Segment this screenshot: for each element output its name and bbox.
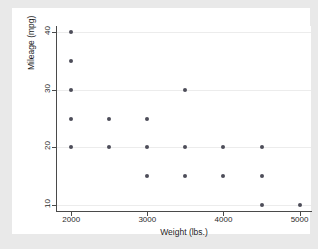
plot-area — [56, 26, 311, 211]
data-point — [183, 145, 187, 149]
data-point — [69, 59, 73, 63]
data-point — [145, 117, 149, 121]
data-point — [221, 174, 225, 178]
data-point — [298, 203, 302, 207]
y-tick-label-text: 10 — [43, 199, 52, 208]
data-point — [107, 145, 111, 149]
gridline-y-40 — [56, 32, 311, 33]
y-tick-label-text: 30 — [43, 84, 52, 93]
chart-panel: 10203040 2000300040005000 Mileage (mpg) … — [12, 8, 310, 234]
chart-figure: 10203040 2000300040005000 Mileage (mpg) … — [0, 0, 318, 249]
y-tick-label-text: 40 — [43, 26, 52, 35]
data-point — [260, 203, 264, 207]
y-tick-label-text: 20 — [43, 141, 52, 150]
y-axis-line — [56, 26, 57, 212]
data-point — [69, 117, 73, 121]
data-point — [260, 174, 264, 178]
x-tick-label: 5000 — [280, 215, 318, 224]
x-tick-label: 2000 — [51, 215, 91, 224]
data-point — [145, 174, 149, 178]
x-tick-label: 3000 — [127, 215, 167, 224]
y-tick-40 — [52, 32, 56, 33]
gridline-y-10 — [56, 205, 311, 206]
data-point — [69, 30, 73, 34]
data-point — [221, 145, 225, 149]
x-axis-line — [56, 211, 312, 212]
y-axis-title: Mileage (mpg) — [26, 16, 36, 70]
x-tick-label: 4000 — [203, 215, 243, 224]
y-tick-30 — [52, 90, 56, 91]
x-axis-title: Weight (lbs.) — [56, 227, 312, 237]
y-tick-label: 10 — [12, 199, 52, 208]
data-point — [69, 145, 73, 149]
data-point — [69, 88, 73, 92]
y-tick-10 — [52, 205, 56, 206]
data-point — [107, 117, 111, 121]
y-tick-label: 30 — [12, 84, 52, 93]
data-point — [260, 145, 264, 149]
data-point — [183, 174, 187, 178]
data-point — [145, 145, 149, 149]
y-tick-label: 20 — [12, 141, 52, 150]
y-tick-20 — [52, 147, 56, 148]
